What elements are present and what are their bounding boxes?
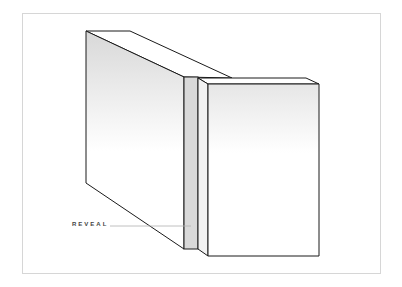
reveal-label: REVEAL [72, 221, 108, 227]
right-panel [198, 78, 319, 256]
reveal-gap [184, 77, 198, 249]
panel-reveal-diagram [0, 0, 402, 287]
